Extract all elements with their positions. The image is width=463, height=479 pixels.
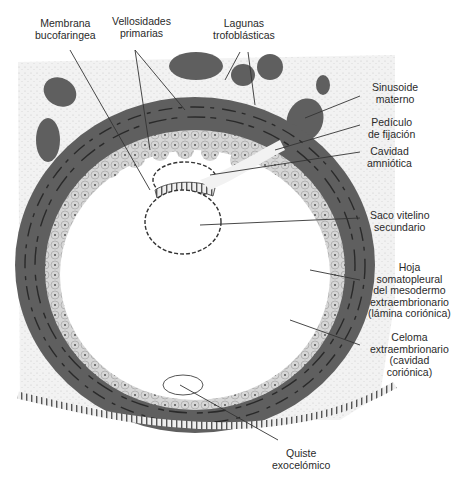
embryo-diagram: Membrana bucofaringea Vellosidades prima… <box>0 0 463 479</box>
label-quiste-exocelomico: Quiste exocelómico <box>272 448 330 471</box>
secondary-yolk-sac <box>145 190 221 254</box>
label-saco-vitelino-secundario: Saco vitelino secundario <box>370 210 430 233</box>
label-cavidad-amniotica: Cavidad amniótica <box>367 146 412 169</box>
label-hoja-somatopleural: Hoja somatopleural del mesodermo extraem… <box>368 262 451 320</box>
label-lagunas-trofoblasticas: Lagunas trofoblásticas <box>213 18 275 41</box>
label-pediculo-fijacion: Pedículo de fijación <box>368 117 415 140</box>
exocoelomic-cyst <box>163 375 203 395</box>
label-vellosidades-primarias: Vellosidades primarias <box>112 16 171 39</box>
diagram-artwork <box>0 0 463 479</box>
label-sinusoide-materno: Sinusoide materno <box>372 82 418 105</box>
label-celoma-extraembrionario: Celoma extraembrionario (cavidad corióni… <box>370 332 449 378</box>
label-membrana-bucofaringea: Membrana bucofaringea <box>35 18 96 41</box>
